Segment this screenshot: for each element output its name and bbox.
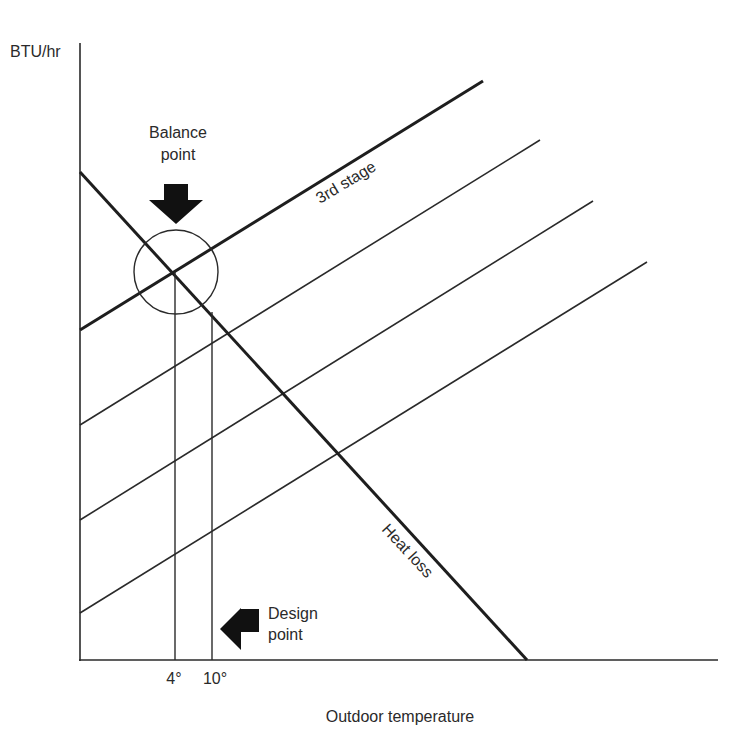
x-tick-4: 4° [166,670,181,687]
third-stage-line [80,81,483,330]
balance-point-label-1: Balance [149,124,207,141]
x-tick-10: 10° [203,670,227,687]
capacity-line-4 [80,262,647,613]
x-axis-label: Outdoor temperature [326,708,475,725]
heat-loss-line [80,172,527,660]
heat-pump-balance-diagram: BTU/hr Balance point 3rd stage Heat loss… [0,0,747,742]
balance-point-label-2: point [161,146,196,163]
design-point-label-2: point [268,626,303,643]
balance-arrow-icon [149,184,203,224]
capacity-line-3 [80,201,593,520]
design-arrow-icon [220,608,259,650]
design-point-label-1: Design [268,605,318,622]
capacity-line-2 [80,140,540,425]
y-axis-label: BTU/hr [10,43,61,60]
